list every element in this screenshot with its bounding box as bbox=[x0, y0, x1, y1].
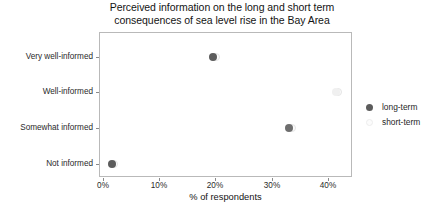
x-tick-label-20: 20% bbox=[198, 181, 232, 190]
data-point-long-term-well-informed bbox=[332, 88, 340, 96]
x-tick-label-0: 0% bbox=[86, 181, 120, 190]
legend: long-term short-term bbox=[366, 100, 442, 130]
legend-label-long-term: long-term bbox=[382, 100, 417, 115]
data-point-long-term-somewhat-informed bbox=[285, 124, 293, 132]
y-tick-mark-somewhat-informed bbox=[96, 128, 99, 129]
legend-item-long-term[interactable]: long-term bbox=[366, 100, 442, 115]
data-point-long-term-very-well-informed bbox=[209, 53, 217, 61]
y-tick-mark-well-informed bbox=[96, 92, 99, 93]
y-tick-label-well-informed: Well-informed bbox=[0, 87, 93, 96]
x-tick-label-40: 40% bbox=[311, 181, 345, 190]
y-tick-mark-very-well-informed bbox=[96, 57, 99, 58]
legend-item-short-term[interactable]: short-term bbox=[366, 115, 442, 130]
y-tick-label-somewhat-informed: Somewhat informed bbox=[0, 123, 93, 132]
chart-title-line-2: consequences of sea level rise in the Ba… bbox=[72, 14, 372, 27]
x-axis-title: % of respondents bbox=[99, 192, 352, 202]
y-tick-mark-not-informed bbox=[96, 164, 99, 165]
scatter-chart: Perceived information on the long and sh… bbox=[0, 0, 442, 210]
plot-area bbox=[99, 32, 352, 177]
y-tick-label-very-well-informed: Very well-informed bbox=[0, 52, 93, 61]
filled-dot-icon bbox=[366, 104, 373, 111]
data-point-long-term-not-informed bbox=[108, 160, 116, 168]
open-dot-icon bbox=[366, 119, 373, 126]
legend-label-short-term: short-term bbox=[382, 115, 420, 130]
x-tick-label-30: 30% bbox=[255, 181, 289, 190]
chart-title-line-1: Perceived information on the long and sh… bbox=[72, 1, 372, 14]
chart-title: Perceived information on the long and sh… bbox=[72, 1, 372, 27]
y-tick-label-not-informed: Not informed bbox=[0, 159, 93, 168]
x-tick-label-10: 10% bbox=[142, 181, 176, 190]
